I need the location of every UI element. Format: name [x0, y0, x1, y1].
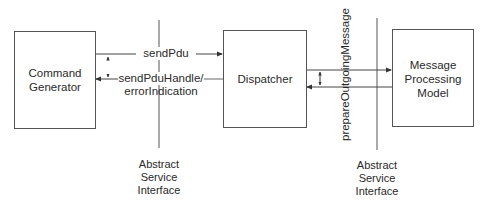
send-pdu-handle-label: sendPduHandle/ errorIndication [118, 72, 204, 98]
right-interface-label: Abstract Service Interface [342, 159, 412, 198]
dispatcher-box: Dispatcher [223, 30, 307, 128]
send-pdu-handle-label-2: errorIndication [118, 85, 204, 98]
mpm-label-3: Model [405, 86, 462, 100]
command-generator-label-2: Generator [28, 80, 81, 94]
right-interface-label-1: Abstract [342, 159, 412, 172]
left-interface-label-2: Service [124, 171, 194, 184]
send-pdu-handle-label-1: sendPduHandle/ [118, 72, 204, 85]
send-pdu-label: sendPdu [136, 47, 196, 60]
message-processing-model-box: Message Processing Model [392, 29, 474, 127]
left-interface-label: Abstract Service Interface [124, 158, 194, 197]
prepare-outgoing-message-label: prepareOutgoingMessage [339, 8, 351, 141]
mpm-label-1: Message [405, 58, 462, 72]
command-generator-label-1: Command [28, 66, 81, 80]
left-interface-label-3: Interface [124, 184, 194, 197]
command-generator-box: Command Generator [14, 31, 96, 129]
dispatcher-label: Dispatcher [238, 72, 293, 86]
mpm-label-2: Processing [405, 72, 462, 86]
right-interface-label-3: Interface [342, 185, 412, 198]
left-interface-label-1: Abstract [124, 158, 194, 171]
right-interface-label-2: Service [342, 172, 412, 185]
